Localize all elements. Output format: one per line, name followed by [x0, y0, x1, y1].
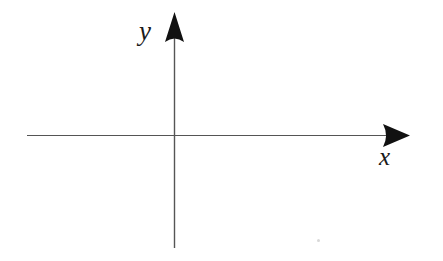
- y-axis-arrowhead-icon: [165, 12, 184, 42]
- figure-canvas: y x: [0, 0, 443, 261]
- y-axis-label: y: [139, 18, 151, 45]
- coordinate-axes-diagram: [0, 0, 443, 261]
- x-axis-label: x: [379, 144, 390, 169]
- scan-artifact-speck: [317, 239, 320, 242]
